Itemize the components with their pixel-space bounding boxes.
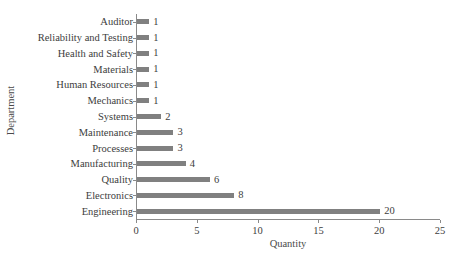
y-axis-tick-label: Systems: [18, 111, 133, 122]
x-axis-title-text: Quantity: [270, 238, 307, 249]
bar-value-label: 1: [153, 48, 158, 59]
bar: [137, 177, 210, 182]
bar-value-label: 8: [238, 190, 243, 201]
bar-value-label: 1: [153, 96, 158, 107]
bar: [137, 193, 234, 198]
bar-value-label: 3: [177, 127, 182, 138]
y-axis-tick-label: Reliability and Testing: [18, 32, 133, 43]
bar: [137, 19, 149, 24]
y-axis-tick: [133, 53, 136, 54]
y-axis-tick-label: Health and Safety: [18, 48, 133, 59]
x-axis-tick-label: 15: [313, 225, 324, 236]
plot-area: 11111123346820 0510152025: [136, 14, 440, 219]
bar-chart: Department AuditorReliability and Testin…: [0, 0, 465, 264]
bar-value-label: 1: [153, 33, 158, 44]
y-axis-tick-label: Manufacturing: [18, 158, 133, 169]
y-axis-tick-label: Quality: [18, 174, 133, 185]
x-axis-tick: [318, 220, 319, 223]
bar-value-label: 4: [190, 159, 195, 170]
y-axis-tick: [133, 148, 136, 149]
y-axis-tick: [133, 132, 136, 133]
bar: [137, 51, 149, 56]
y-axis-tick: [133, 22, 136, 23]
y-axis-tick-label: Materials: [18, 64, 133, 75]
bar-value-label: 2: [165, 112, 170, 123]
bar-value-label: 1: [153, 64, 158, 75]
x-axis-tick: [197, 220, 198, 223]
y-axis-tick: [133, 85, 136, 86]
bar-value-label: 3: [177, 143, 182, 154]
bar-value-label: 1: [153, 17, 158, 28]
y-axis-tick: [133, 195, 136, 196]
x-axis-tick: [136, 220, 137, 223]
bar: [137, 161, 186, 166]
y-axis-tick-label: Mechanics: [18, 95, 133, 106]
bar: [137, 146, 173, 151]
bar: [137, 35, 149, 40]
x-axis-tick: [379, 220, 380, 223]
bar-value-label: 1: [153, 80, 158, 91]
bar: [137, 82, 149, 87]
bar: [137, 114, 161, 119]
bar: [137, 209, 380, 214]
y-axis-tick-labels: AuditorReliability and TestingHealth and…: [18, 14, 133, 219]
y-axis-tick: [133, 117, 136, 118]
x-axis-tick-label: 25: [435, 225, 446, 236]
y-axis-tick-label: Maintenance: [18, 127, 133, 138]
x-axis-title: Quantity: [136, 238, 440, 249]
x-axis-tick-label: 5: [194, 225, 199, 236]
y-axis-tick: [133, 69, 136, 70]
y-axis-tick-label: Human Resources: [18, 79, 133, 90]
y-axis-tick: [133, 180, 136, 181]
x-axis-tick: [258, 220, 259, 223]
bar: [137, 130, 173, 135]
y-axis-tick: [133, 164, 136, 165]
y-axis-tick-label: Electronics: [18, 190, 133, 201]
bar-value-label: 6: [214, 175, 219, 186]
x-axis-tick-label: 10: [252, 225, 263, 236]
y-axis-title-text: Department: [6, 85, 17, 135]
x-axis-line: [136, 219, 440, 220]
bar: [137, 67, 149, 72]
y-axis-tick: [133, 211, 136, 212]
y-axis-tick-label: Auditor: [18, 16, 133, 27]
x-axis-tick: [440, 220, 441, 223]
y-axis-tick-label: Processes: [18, 143, 133, 154]
bar: [137, 98, 149, 103]
y-axis-tick: [133, 101, 136, 102]
y-axis-tick-label: Engineering: [18, 206, 133, 217]
bar-value-label: 20: [384, 206, 395, 217]
y-axis-tick: [133, 38, 136, 39]
x-axis-tick-label: 0: [133, 225, 138, 236]
x-axis-tick-label: 20: [374, 225, 385, 236]
